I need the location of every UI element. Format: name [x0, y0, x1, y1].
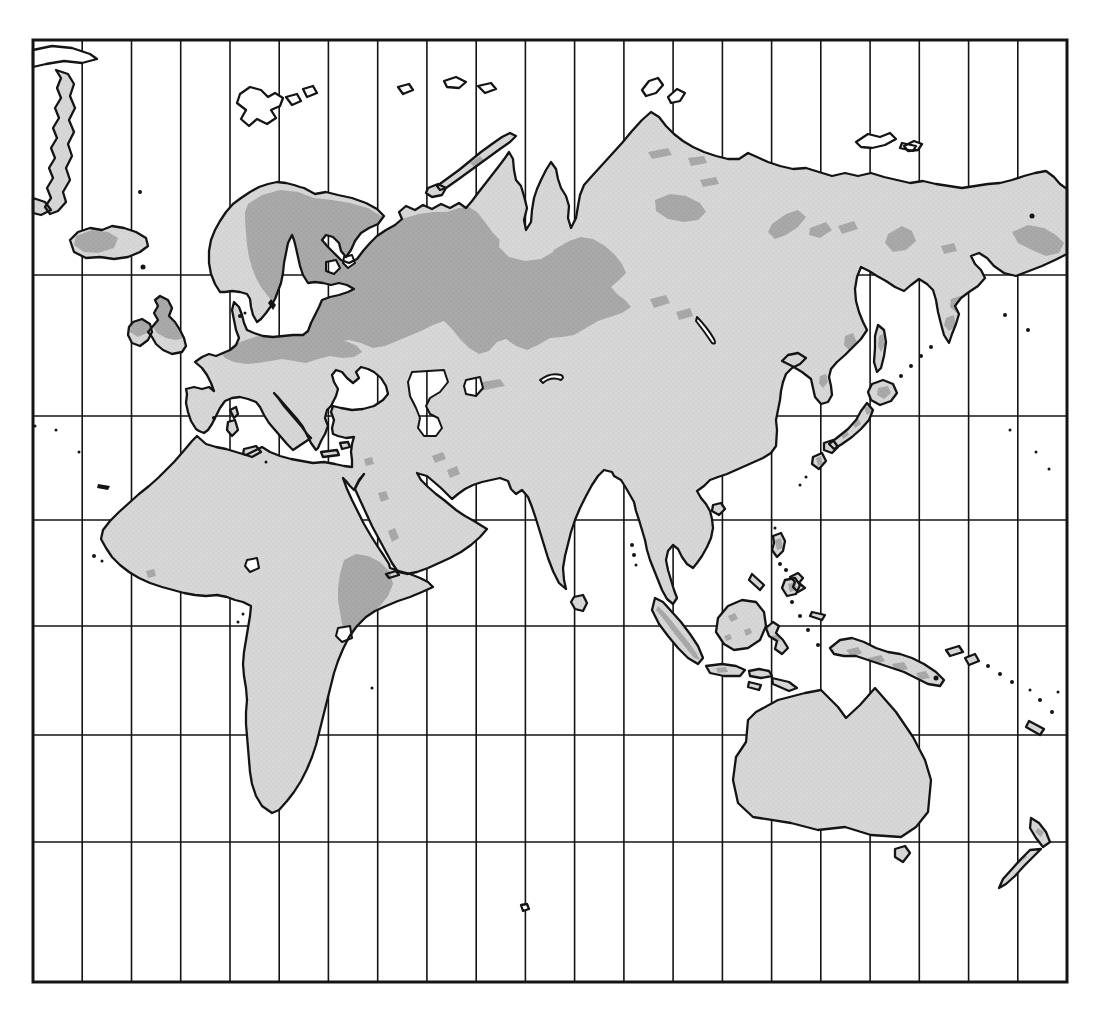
lake-victoria — [336, 626, 352, 642]
nicobar-island-dot — [635, 564, 638, 567]
gulf-of-guinea-isl-2-island-dot — [237, 621, 240, 624]
mariana-3-island-dot — [1048, 468, 1051, 471]
molucca-2-island-dot — [798, 614, 802, 618]
bismarck-speck-island-dot — [934, 676, 939, 681]
azores-2-island-dot — [55, 429, 58, 432]
danish-isle-2-island-dot — [244, 312, 247, 315]
world-distribution-map — [0, 0, 1093, 1021]
cape-verde-1-island-dot — [92, 554, 96, 558]
ryukyu-2-island-dot — [799, 484, 802, 487]
ryukyu-1-island-dot — [805, 476, 808, 479]
andaman-1-island-dot — [630, 543, 634, 547]
jan-mayen-island-dot — [138, 190, 142, 194]
andaman-2-island-dot — [632, 553, 636, 557]
loyalty-1-island-dot — [1038, 698, 1042, 702]
gulf-of-guinea-isl-1-island-dot — [242, 613, 245, 616]
kuril-1-island-dot — [899, 374, 903, 378]
visayas-2-island-dot — [784, 568, 788, 572]
madeira-island-dot — [78, 451, 81, 454]
solomon-3-island-dot — [1010, 680, 1014, 684]
loyalty-2-island-dot — [1050, 710, 1054, 714]
solomon-2-island-dot — [998, 672, 1002, 676]
kuril-4-island-dot — [929, 345, 933, 349]
vanuatu-island-dot — [1029, 689, 1032, 692]
solomon-1-island-dot — [986, 664, 990, 668]
babuyan-island-dot — [774, 527, 777, 530]
commander-1-island-dot — [1003, 313, 1007, 317]
world-map-svg — [0, 0, 1093, 1021]
mariana-1-island-dot — [1009, 429, 1012, 432]
commander-2-island-dot — [1026, 328, 1030, 332]
molucca-4-island-dot — [816, 643, 820, 647]
molucca-1-island-dot — [790, 600, 794, 604]
lake-chad — [245, 558, 259, 572]
malta-island-dot — [265, 461, 268, 464]
molucca-3-island-dot — [806, 628, 810, 632]
mariana-2-island-dot — [1035, 451, 1038, 454]
kuril-3-island-dot — [919, 354, 923, 358]
st-lawrence-island-dot — [1030, 214, 1035, 219]
scanned-atlas-page — [0, 0, 1093, 1021]
visayas-1-island-dot — [778, 562, 782, 566]
fiji-island-dot — [1057, 691, 1060, 694]
cape-verde-2-island-dot — [101, 560, 104, 563]
kuril-2-island-dot — [909, 364, 913, 368]
java-range — [716, 667, 728, 673]
faroe-island-dot — [141, 265, 146, 270]
comoros-island-dot — [371, 687, 374, 690]
